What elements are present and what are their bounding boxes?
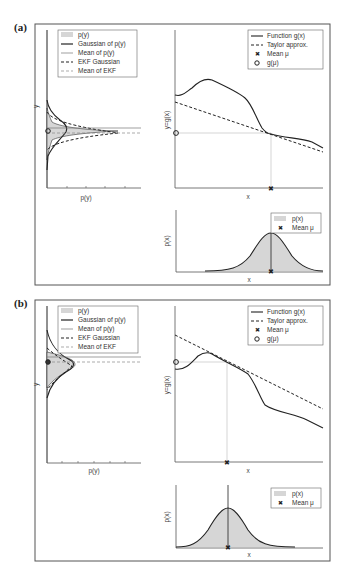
svg-text:p(x): p(x): [163, 511, 171, 522]
y-axis-label: y: [32, 104, 40, 108]
top-right-plot-a: ✖ y=g(x) x Function g(x) Taylor approx. …: [163, 30, 323, 200]
svg-text:✖: ✖: [224, 459, 230, 466]
svg-text:g(μ): g(μ): [267, 59, 279, 67]
panel-label-a: (a): [14, 21, 27, 34]
svg-text:Mean of EKF: Mean of EKF: [78, 67, 116, 74]
legend-bottom-right-a: p(x) ✖ Mean μ: [271, 213, 321, 233]
svg-text:Mean of p(y): Mean of p(y): [78, 325, 115, 333]
svg-text:y=g(x): y=g(x): [163, 376, 171, 394]
svg-text:Gaussian of p(y): Gaussian of p(y): [78, 40, 126, 48]
svg-text:x: x: [247, 276, 251, 283]
svg-text:Taylor approx.: Taylor approx.: [267, 317, 308, 325]
svg-text:p(x): p(x): [292, 215, 303, 223]
legend-top-right-b: Function g(x) Taylor approx. ✖ Mean μ g(…: [248, 306, 323, 345]
panel-a: (a) y p(y) p(y): [14, 21, 330, 285]
svg-text:p(y): p(y): [78, 307, 89, 315]
panel-label-b: (b): [14, 297, 28, 310]
svg-text:Mean μ: Mean μ: [267, 50, 289, 58]
svg-text:Mean μ: Mean μ: [267, 326, 289, 334]
panel-b: (b) y p(y) p(y) Gaussian of p(y): [14, 297, 330, 561]
legend-bottom-right-b: p(x) ✖ Mean μ: [271, 488, 321, 508]
svg-text:Mean of EKF: Mean of EKF: [78, 343, 116, 350]
legend-top-right-a: Function g(x) Taylor approx. ✖ Mean μ g(…: [248, 30, 323, 69]
svg-text:✖: ✖: [255, 327, 260, 333]
svg-text:p(y): p(y): [78, 31, 89, 39]
svg-text:✖: ✖: [278, 500, 283, 506]
svg-text:y: y: [32, 382, 40, 386]
bottom-right-plot-a: ✖ p(x) x p(x) ✖ Mean μ: [163, 210, 323, 283]
svg-text:Gaussian of p(y): Gaussian of p(y): [78, 316, 126, 324]
left-plot-b: y p(y) p(y) Gaussian of p(y) Mean of p(y…: [32, 306, 141, 475]
figure: (a) y p(y) p(y): [0, 0, 344, 587]
svg-text:g(μ): g(μ): [267, 335, 279, 343]
svg-text:Mean μ: Mean μ: [292, 224, 314, 232]
svg-text:x: x: [246, 467, 250, 474]
svg-text:Mean μ: Mean μ: [292, 499, 314, 507]
svg-text:p(x): p(x): [163, 235, 171, 246]
svg-text:p(y): p(y): [88, 467, 99, 475]
mean-marker: ✖: [268, 185, 274, 192]
legend-left-a: p(y) Gaussian of p(y) Mean of p(y) EKF G…: [58, 30, 137, 77]
svg-text:EKF Gaussian: EKF Gaussian: [78, 334, 120, 341]
svg-text:Taylor approx.: Taylor approx.: [267, 41, 308, 49]
svg-text:x: x: [247, 551, 251, 558]
svg-text:✖: ✖: [225, 544, 231, 551]
left-plot-a: y p(y) p(y) Gaussian of p(y) Mean of p(y…: [32, 30, 141, 202]
svg-text:x: x: [246, 193, 250, 200]
svg-text:✖: ✖: [278, 225, 283, 231]
svg-text:y=g(x): y=g(x): [163, 111, 171, 129]
svg-text:✖: ✖: [255, 51, 260, 57]
x-axis-label: p(y): [80, 194, 91, 202]
top-right-plot-b: ✖ y=g(x) x Function g(x) Taylor approx. …: [163, 306, 323, 474]
svg-text:p(x): p(x): [292, 490, 303, 498]
svg-text:Function g(x): Function g(x): [267, 32, 305, 40]
legend-left-b: p(y) Gaussian of p(y) Mean of p(y) EKF G…: [58, 306, 138, 353]
svg-text:Mean of p(y): Mean of p(y): [78, 49, 115, 57]
svg-text:✖: ✖: [268, 268, 274, 275]
svg-text:Function g(x): Function g(x): [267, 308, 305, 316]
svg-text:EKF Gaussian: EKF Gaussian: [78, 58, 120, 65]
bottom-right-plot-b: ✖ p(x) x p(x) ✖ Mean μ: [163, 485, 323, 558]
